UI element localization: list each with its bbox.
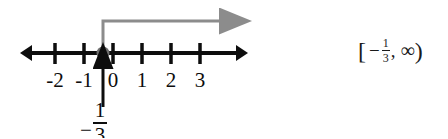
infinity-symbol: ∞ <box>400 39 414 62</box>
open-bracket: [ <box>358 39 366 63</box>
interval-minus-sign: − <box>369 40 380 62</box>
endpoint-value-label: − 1 3 <box>80 100 107 138</box>
tick-label-3: 3 <box>183 70 217 91</box>
interval-notation: [ − 1 3 , ∞ ) <box>358 37 423 64</box>
close-paren: ) <box>415 39 423 63</box>
interval-comma: , <box>391 40 396 62</box>
left-arrowhead <box>20 45 32 61</box>
number-line-graphic <box>0 0 448 138</box>
interval-numerator: 1 <box>382 37 390 49</box>
endpoint-numerator: 1 <box>93 100 108 121</box>
endpoint-denominator: 3 <box>93 125 108 138</box>
interval-denominator: 3 <box>382 52 390 64</box>
number-line-figure: -2 -1 0 1 2 3 − 1 3 <box>0 0 448 138</box>
endpoint-fraction: 1 3 <box>93 100 108 138</box>
interval-fraction: 1 3 <box>382 37 390 64</box>
solution-ray <box>103 21 222 52</box>
closed-endpoint-dot <box>97 47 110 60</box>
right-arrowhead <box>236 45 248 61</box>
endpoint-minus-sign: − <box>80 118 92 139</box>
